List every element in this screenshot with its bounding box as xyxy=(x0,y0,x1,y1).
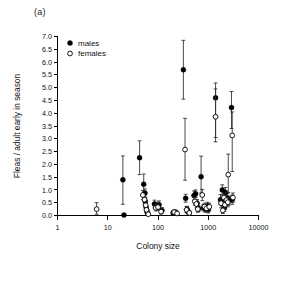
x-tick-label: 10000 xyxy=(249,223,269,232)
data-point-male xyxy=(181,67,186,72)
data-point-female xyxy=(195,207,200,212)
y-tick-label: 7.0 xyxy=(42,32,52,41)
y-tick-label: 5.5 xyxy=(42,70,52,79)
data-point-female xyxy=(146,212,151,217)
y-tick-label: 0.5 xyxy=(42,198,52,207)
y-tick-label: 5.0 xyxy=(42,83,52,92)
data-point-male xyxy=(199,174,204,179)
data-point-female xyxy=(140,193,145,198)
figure-panel-a: (a) 0.00.51.01.52.02.53.03.54.04.55.05.5… xyxy=(0,0,289,285)
y-tick-label: 1.0 xyxy=(42,186,52,195)
legend-marker-males xyxy=(68,41,73,46)
data-point-female xyxy=(159,209,164,214)
x-tick-label: 1 xyxy=(56,223,60,232)
data-point-male xyxy=(121,212,126,217)
data-point-male xyxy=(229,105,234,110)
data-point-male xyxy=(193,191,198,196)
y-tick-label: 6.0 xyxy=(42,58,52,67)
x-tick-label: 100 xyxy=(152,223,164,232)
x-tick-label: 1000 xyxy=(200,223,216,232)
x-tick-label: 10 xyxy=(104,223,112,232)
data-point-female xyxy=(207,204,212,209)
x-axis-title: Colony size xyxy=(136,241,180,251)
data-point-female xyxy=(183,147,188,152)
data-point-male xyxy=(120,177,125,182)
data-point-male xyxy=(141,182,146,187)
legend: malesfemales xyxy=(68,39,107,59)
data-point-male xyxy=(137,155,142,160)
y-tick-label: 4.0 xyxy=(42,109,52,118)
scatter-plot: 0.00.51.01.52.02.53.03.54.04.55.05.56.06… xyxy=(0,0,289,285)
data-point-female xyxy=(220,208,225,213)
data-point-female xyxy=(213,114,218,119)
y-tick-label: 1.5 xyxy=(42,173,52,182)
series-females xyxy=(94,89,235,217)
data-point-female xyxy=(225,200,230,205)
y-tick-label: 2.5 xyxy=(42,147,52,156)
y-tick-label: 3.0 xyxy=(42,134,52,143)
y-tick-label: 2.0 xyxy=(42,160,52,169)
legend-marker-females xyxy=(68,51,73,56)
y-tick-label: 3.5 xyxy=(42,122,52,131)
y-tick-label: 4.5 xyxy=(42,96,52,105)
data-point-female xyxy=(143,203,148,208)
data-point-male xyxy=(183,196,188,201)
data-point-female xyxy=(194,202,199,207)
y-tick-label: 0.0 xyxy=(42,211,52,220)
y-tick-label: 6.5 xyxy=(42,45,52,54)
data-point-female xyxy=(200,193,205,198)
data-point-female xyxy=(156,205,161,210)
legend-label-females: females xyxy=(78,49,106,58)
series-males xyxy=(120,40,234,217)
data-point-female xyxy=(226,172,231,177)
data-point-female xyxy=(94,207,99,212)
data-point-female xyxy=(175,211,180,216)
data-point-female xyxy=(142,197,147,202)
y-axis-title: Fleas / adult early in season xyxy=(12,74,22,179)
data-point-female xyxy=(231,195,236,200)
data-point-female xyxy=(230,133,235,138)
legend-label-males: males xyxy=(78,39,99,48)
data-point-female xyxy=(187,211,192,216)
